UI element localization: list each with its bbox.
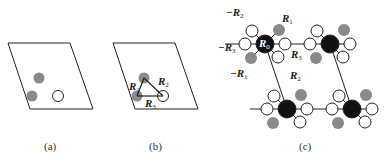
unit-cell-parallelogram [8,43,93,109]
figure-canvas: R1 R2 R3 [0,0,386,162]
caption-a: (a) [44,140,56,152]
site [261,89,313,129]
gray-atom [34,73,45,84]
label-r3: R3 [144,97,156,111]
caption-c: (c) [299,140,311,152]
label-neg-r2: −R2 [226,6,244,20]
label-r2: R2 [157,75,169,89]
panel-b: R1 R2 R3 [113,43,198,111]
gray-atom [27,91,38,102]
label-r1: R1 [281,12,293,26]
open-atom [53,91,64,102]
label-r1: R1 [128,80,140,94]
label-neg-r1: −R1 [230,67,248,81]
label-neg-r3: −R3 [218,41,236,55]
label-r3: R3 [290,48,302,62]
caption-b: (b) [149,140,162,152]
site [326,89,378,129]
unit-cell-parallelogram [113,43,198,109]
panel-a [8,43,93,109]
panel-c [225,24,378,129]
site [304,24,356,64]
label-r2: R2 [289,69,301,83]
